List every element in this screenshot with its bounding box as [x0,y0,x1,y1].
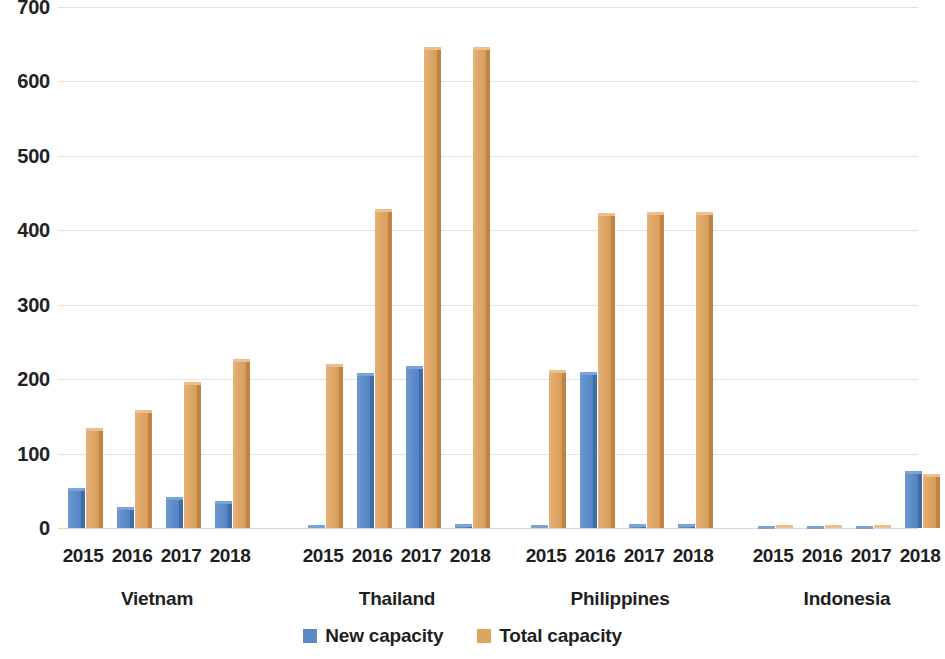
bar-thailand-2016-new[interactable] [357,373,374,528]
bar-face [357,373,371,528]
bar-side [197,382,201,528]
year-cluster-2018 [905,7,945,528]
x-axis-year-label: 2015 [522,545,570,567]
bar-thailand-2017-total[interactable] [424,47,441,528]
bar-face [326,364,340,528]
x-axis-country-label-indonesia: Indonesia [749,588,945,610]
bar-face [233,359,247,528]
bar-group-thailand [308,7,504,528]
bar-philippines-2018-total[interactable] [696,212,713,528]
bar-side [246,359,250,528]
year-cluster-2015 [308,7,351,528]
bar-thailand-2016-total[interactable] [375,209,392,528]
bar-top [473,47,490,50]
bar-thailand-2018-total[interactable] [473,47,490,528]
bar-top [580,372,597,375]
bar-philippines-2017-new[interactable] [629,524,646,528]
bar-face [215,501,229,528]
bar-top [678,524,695,527]
bar-indonesia-2015-total[interactable] [776,525,793,528]
bar-thailand-2018-new[interactable] [455,524,472,528]
bar-top [905,471,922,474]
bar-top [758,526,775,529]
bar-face [86,428,100,528]
bar-thailand-2015-total[interactable] [326,364,343,528]
bar-top [135,410,152,413]
bar-top [357,373,374,376]
bar-side [660,212,664,528]
x-axis-year-label: 2018 [896,545,944,567]
x-axis-year-label: 2016 [798,545,846,567]
year-cluster-2016 [357,7,400,528]
bar-philippines-2016-new[interactable] [580,372,597,528]
y-axis-tick-label: 400 [0,219,50,242]
legend-swatch-icon [477,629,491,643]
plot-area [58,7,918,528]
x-axis-year-label: 2017 [397,545,445,567]
bar-top [86,428,103,431]
bar-top [326,364,343,367]
bar-top [598,213,615,216]
bar-philippines-2016-total[interactable] [598,213,615,528]
bar-top [776,525,793,528]
y-axis-tick-label: 300 [0,293,50,316]
x-axis-country-label-vietnam: Vietnam [59,588,255,610]
x-axis-year-label: 2015 [749,545,797,567]
bar-indonesia-2015-new[interactable] [758,526,775,528]
bar-philippines-2015-total[interactable] [549,370,566,528]
bar-group-philippines [531,7,727,528]
bar-indonesia-2016-new[interactable] [807,526,824,528]
bar-indonesia-2016-total[interactable] [825,525,842,528]
bar-vietnam-2017-new[interactable] [166,497,183,528]
legend-swatch-icon [303,629,317,643]
bar-face [406,366,420,528]
bar-indonesia-2017-new[interactable] [856,526,873,528]
bar-vietnam-2016-total[interactable] [135,410,152,528]
y-axis-tick-label: 0 [0,517,50,540]
bar-vietnam-2015-total[interactable] [86,428,103,528]
bar-top [68,488,85,491]
bar-thailand-2015-new[interactable] [308,525,325,528]
x-axis-year-label: 2017 [620,545,668,567]
bar-side [81,488,85,528]
year-cluster-2017 [166,7,209,528]
bar-side [486,47,490,528]
year-cluster-2016 [580,7,623,528]
bar-top [424,47,441,50]
year-cluster-2016 [807,7,850,528]
bar-philippines-2015-new[interactable] [531,525,548,528]
bar-side [370,373,374,528]
bar-vietnam-2017-total[interactable] [184,382,201,528]
bar-face [647,212,661,528]
bar-philippines-2018-new[interactable] [678,524,695,528]
x-axis-year-label: 2015 [299,545,347,567]
bar-indonesia-2017-total[interactable] [874,525,891,528]
bar-top [406,366,423,369]
legend-item-new-capacity[interactable]: New capacity [303,625,443,647]
bar-vietnam-2018-total[interactable] [233,359,250,528]
bar-indonesia-2018-new[interactable] [905,471,922,528]
bar-vietnam-2015-new[interactable] [68,488,85,528]
bar-top [874,525,891,528]
bar-philippines-2017-total[interactable] [647,212,664,528]
chart-legend: New capacityTotal capacity [0,625,925,647]
bar-thailand-2017-new[interactable] [406,366,423,528]
bar-side [179,497,183,528]
x-axis-year-label: 2016 [571,545,619,567]
bar-face [184,382,198,528]
bar-indonesia-2018-total[interactable] [923,474,940,528]
legend-item-total-capacity[interactable]: Total capacity [477,625,622,647]
axis-baseline [58,528,918,529]
bar-side [593,372,597,528]
bar-vietnam-2018-new[interactable] [215,501,232,528]
bar-vietnam-2016-new[interactable] [117,507,134,528]
y-axis-tick-label: 500 [0,144,50,167]
bar-face [68,488,82,528]
x-axis-country-label-philippines: Philippines [522,588,718,610]
bar-top [455,524,472,527]
y-axis-tick-label: 600 [0,70,50,93]
legend-label: New capacity [325,625,443,647]
bar-top [696,212,713,215]
bar-side [709,212,713,528]
